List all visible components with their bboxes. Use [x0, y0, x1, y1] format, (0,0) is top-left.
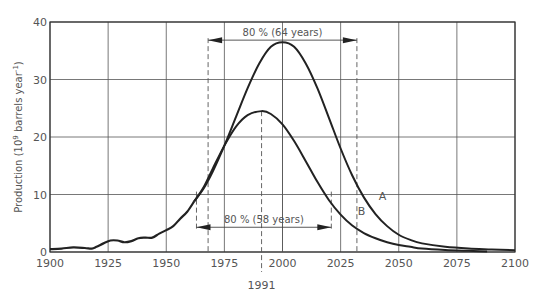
series-label-a: A	[379, 190, 387, 203]
y-tick-label: 40	[33, 16, 47, 29]
x-tick-label: 2100	[501, 257, 529, 270]
x-tick-label: 1975	[210, 257, 238, 270]
range-label: 80 % (64 years)	[243, 27, 323, 38]
range-b-annotation: 80 % (58 years)	[196, 214, 331, 230]
x-tick-label: 1950	[152, 257, 180, 270]
x-tick-label: 2000	[269, 257, 297, 270]
arrow-right-icon	[343, 37, 357, 43]
range-label: 80 % (58 years)	[224, 214, 304, 225]
arrow-right-icon	[317, 224, 331, 230]
peak-year-label: 1991	[248, 279, 276, 292]
y-tick-label: 20	[33, 131, 47, 144]
x-tick-label: 1925	[94, 257, 122, 270]
y-tick-label: 0	[40, 246, 47, 259]
arrow-left-icon	[196, 224, 210, 230]
arrow-left-icon	[208, 37, 222, 43]
axis-ticks: 1900192519501975200020252050207521000102…	[33, 16, 529, 270]
series-label-b: B	[358, 205, 366, 218]
x-tick-label: 2050	[385, 257, 413, 270]
y-tick-label: 30	[33, 74, 47, 87]
oil-production-chart: 1900192519501975200020252050207521000102…	[0, 0, 543, 301]
y-tick-label: 10	[33, 189, 47, 202]
historical-curve	[50, 201, 194, 249]
x-tick-label: 2025	[327, 257, 355, 270]
x-tick-label: 2075	[443, 257, 471, 270]
y-axis-label: Production (109 barrels year-1)	[12, 61, 24, 213]
